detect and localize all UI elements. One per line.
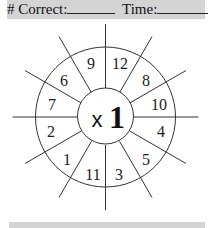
wheel-number: 9 — [87, 55, 95, 72]
wheel-number: 5 — [142, 151, 150, 168]
wheel-number: 10 — [151, 96, 167, 113]
wheel-number: 7 — [48, 96, 56, 113]
wheel-number: 2 — [47, 123, 55, 140]
wheel-number: 11 — [85, 166, 100, 183]
wheel-number: 3 — [115, 166, 123, 183]
center-circle — [78, 88, 134, 144]
wheel-number: 4 — [157, 123, 165, 140]
wheel-number: 8 — [142, 72, 150, 89]
operator-symbol: x — [92, 107, 103, 132]
multiplication-wheel: x 1 912810453111276 — [0, 0, 208, 228]
spoke-line — [120, 141, 153, 197]
wheel-number: 1 — [63, 151, 71, 168]
footer-bar — [9, 222, 205, 228]
wheel-number: 12 — [112, 55, 128, 72]
factor-number: 1 — [109, 99, 125, 135]
wheel-number: 6 — [60, 72, 68, 89]
